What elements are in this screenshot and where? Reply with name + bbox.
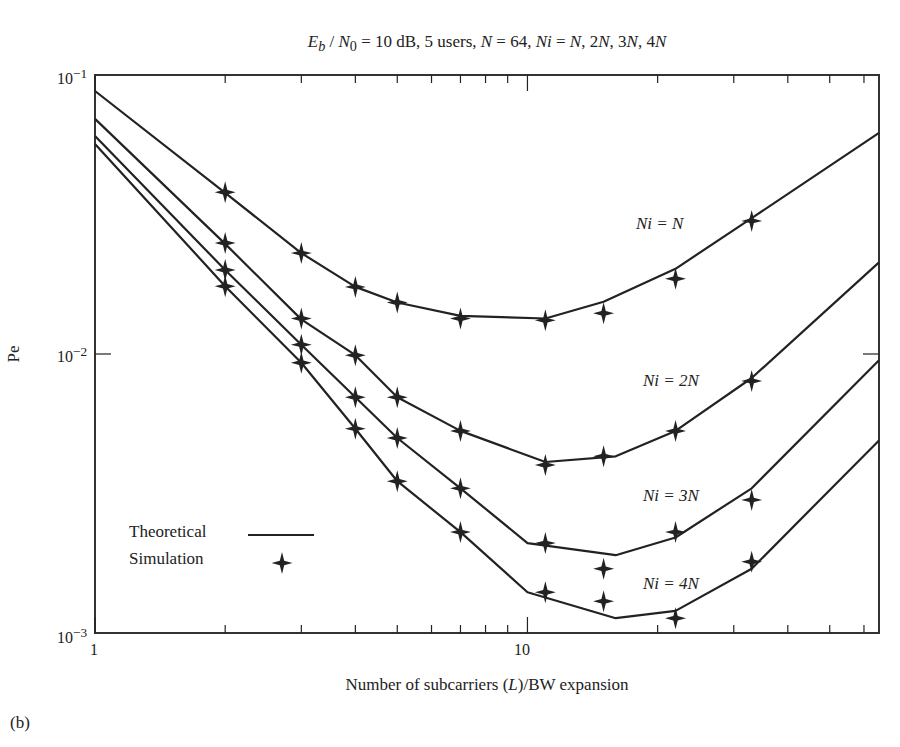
simulation-marker xyxy=(535,454,556,476)
simulation-marker xyxy=(665,607,686,629)
simulation-marker xyxy=(450,477,471,499)
simulation-marker xyxy=(450,308,471,330)
simulation-marker xyxy=(450,420,471,442)
simulation-marker xyxy=(665,420,686,442)
curve-label-ni-n: Ni = N xyxy=(636,214,683,234)
theoretical-curve-3 xyxy=(95,136,879,555)
simulation-marker xyxy=(535,532,556,554)
legend-theoretical-label: Theoretical xyxy=(129,522,206,542)
simulation-marker xyxy=(593,558,614,580)
plot-area xyxy=(0,0,900,747)
y-tick-label-1e-2: 10−2 xyxy=(57,344,87,366)
simulation-marker xyxy=(741,551,762,573)
panel-label: (b) xyxy=(10,713,30,733)
simulation-marker xyxy=(593,302,614,324)
simulation-marker xyxy=(387,291,408,313)
legend-simulation-label: Simulation xyxy=(129,549,204,569)
y-axis-label: Pe xyxy=(4,346,24,363)
simulation-marker xyxy=(741,370,762,392)
simulation-marker xyxy=(535,309,556,331)
y-tick-label-1e-1: 10−1 xyxy=(57,66,87,88)
x-axis-label: Number of subcarriers (L)/BW expansion xyxy=(95,675,879,695)
x-tick-label-1: 1 xyxy=(90,641,98,659)
legend-star-icon xyxy=(272,552,293,574)
simulation-marker xyxy=(291,242,312,264)
simulation-marker xyxy=(593,445,614,467)
simulation-marker xyxy=(593,590,614,612)
theoretical-curve-1 xyxy=(95,91,879,319)
x-tick-label-10: 10 xyxy=(514,641,530,659)
curve-label-ni-2n: Ni = 2N xyxy=(643,371,699,391)
curve-label-ni-3n: Ni = 3N xyxy=(643,486,699,506)
simulation-marker xyxy=(345,276,366,298)
curve-label-ni-4n: Ni = 4N xyxy=(643,574,699,594)
y-tick-label-1e-3: 10−3 xyxy=(57,625,87,647)
chart-title: Eb / N0 = 10 dB, 5 users, N = 64, Ni = N… xyxy=(95,32,879,55)
theoretical-curve-2 xyxy=(95,119,879,462)
plot-frame xyxy=(95,75,879,633)
